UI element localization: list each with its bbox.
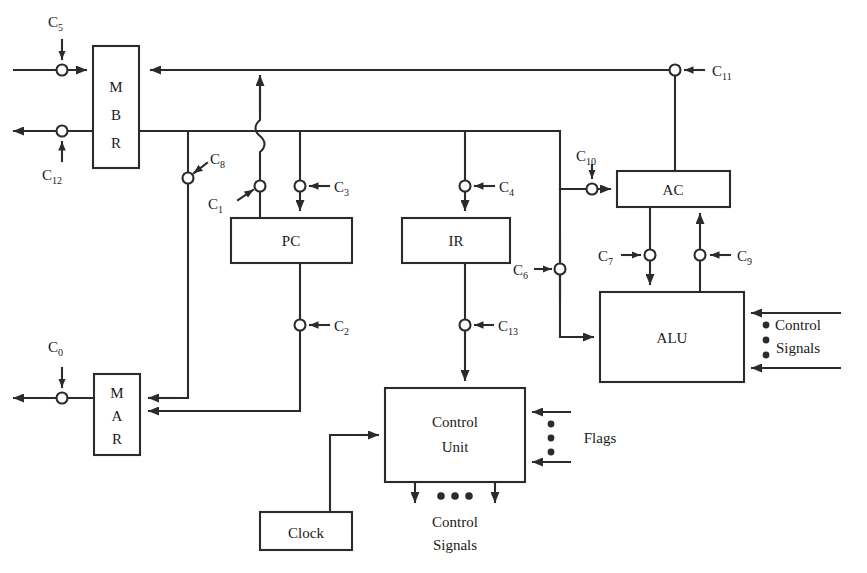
label-c12: C12 — [42, 167, 62, 186]
cu-out-dot-3 — [465, 492, 473, 500]
node-c2[interactable] — [295, 320, 306, 331]
label-c6: C6 — [513, 262, 528, 281]
cu-flag-dot-1 — [548, 421, 555, 428]
label-alu-control-signals-line-1: Signals — [776, 340, 820, 356]
label-c1: C1 — [208, 196, 223, 215]
node-c12[interactable] — [57, 126, 68, 137]
alu-dot-1 — [763, 322, 770, 329]
label-alu: ALU — [657, 330, 688, 346]
label-c13: C13 — [498, 318, 518, 337]
label-mar-line-0: M — [110, 385, 123, 401]
label-c7: C7 — [598, 248, 613, 267]
node-c13[interactable] — [460, 320, 471, 331]
node-c9[interactable] — [695, 250, 706, 261]
label-mar-line-2: R — [112, 431, 122, 447]
bus-to-alu-wire — [560, 189, 592, 337]
node-c7[interactable] — [645, 250, 656, 261]
label-mbr-line-2: R — [111, 135, 121, 151]
label-cu-control-signals-line-1: Signals — [433, 537, 477, 553]
cpu-datapath-diagram: M B R M A R PC IR AC ALU Control Unit Cl… — [0, 0, 867, 573]
node-c3[interactable] — [295, 181, 306, 192]
label-c0: C0 — [48, 339, 63, 358]
label-control-unit-line-1: Unit — [442, 439, 470, 455]
clock-to-cu-wire — [330, 435, 377, 512]
label-c8: C8 — [210, 151, 225, 170]
label-ir: IR — [449, 233, 464, 249]
label-c3: C3 — [334, 179, 349, 198]
label-c5: C5 — [48, 14, 63, 33]
node-c0[interactable] — [57, 393, 68, 404]
label-control-unit-line-0: Control — [432, 414, 478, 430]
cu-flag-dot-3 — [548, 449, 555, 456]
label-c9: C9 — [737, 248, 752, 267]
c1-stub — [238, 190, 253, 200]
label-alu-control-signals-line-0: Control — [775, 317, 821, 333]
label-clock: Clock — [288, 525, 324, 541]
node-c5[interactable] — [57, 65, 68, 76]
cu-out-dot-2 — [451, 492, 459, 500]
node-c8[interactable] — [183, 173, 194, 184]
block-control-unit[interactable] — [385, 388, 525, 482]
node-c11[interactable] — [670, 65, 681, 76]
label-c2: C2 — [334, 318, 349, 337]
cu-flag-dot-2 — [548, 435, 555, 442]
label-c4: C4 — [499, 179, 514, 198]
label-cu-flags: Flags — [584, 430, 617, 446]
blocks — [93, 46, 744, 550]
alu-dot-2 — [763, 337, 770, 344]
label-c10: C10 — [576, 148, 596, 167]
label-mbr-line-1: B — [111, 107, 121, 123]
label-c11: C11 — [712, 63, 732, 82]
cu-out-dot-1 — [437, 492, 445, 500]
label-mbr-line-0: M — [109, 79, 122, 95]
node-c1[interactable] — [255, 181, 266, 192]
node-c6[interactable] — [555, 264, 566, 275]
label-cu-control-signals-line-0: Control — [432, 514, 478, 530]
c8-stub — [194, 163, 207, 173]
node-c4[interactable] — [460, 181, 471, 192]
label-mar-line-1: A — [112, 408, 123, 424]
pc-out-to-mar — [150, 263, 300, 411]
alu-dot-3 — [763, 352, 770, 359]
node-c10[interactable] — [587, 184, 598, 195]
c8-branch-to-mar — [150, 131, 188, 398]
label-pc: PC — [282, 233, 300, 249]
label-ac: AC — [663, 182, 684, 198]
